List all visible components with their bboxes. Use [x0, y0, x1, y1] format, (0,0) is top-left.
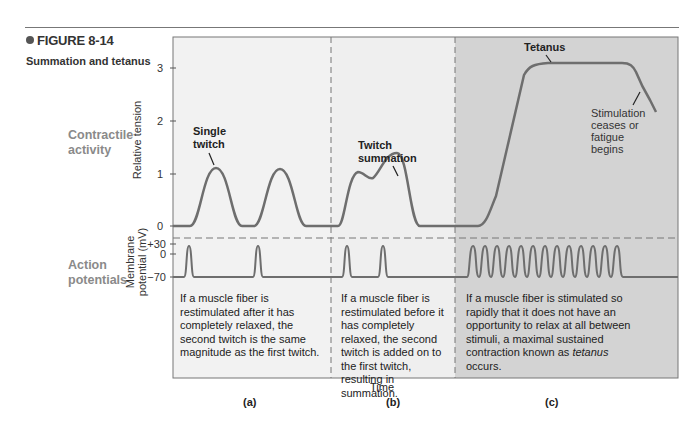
single-twitch-label: twitch [193, 138, 225, 150]
svg-text:Stimulation: Stimulation [591, 107, 645, 119]
panel-c-letter: (c) [545, 396, 558, 408]
svg-text:3: 3 [157, 62, 163, 74]
svg-text:ceases or: ceases or [591, 119, 639, 131]
svg-text:2: 2 [157, 115, 163, 127]
desc-italic: tetanus [572, 346, 608, 358]
svg-text:0: 0 [157, 220, 163, 232]
twitch-summation-label: summation [358, 152, 417, 164]
svg-text:0: 0 [160, 248, 166, 260]
panel-c-description: If a muscle fiber is stimulated so rapid… [466, 292, 641, 373]
panel-b-description: If a muscle fiber is restimulated before… [341, 292, 453, 400]
svg-text:potential (mV): potential (mV) [136, 228, 148, 296]
tension-axis-label: Relative tension [131, 101, 143, 179]
panel-b-letter: (b) [386, 396, 400, 408]
svg-text:1: 1 [157, 168, 163, 180]
twitch-summation-label: Twitch [358, 139, 392, 151]
tetanus-label: Tetanus [524, 41, 565, 53]
single-twitch-label: Single [193, 125, 226, 137]
svg-text:−70: −70 [147, 271, 166, 283]
time-axis-label: Time [370, 381, 394, 393]
svg-text:begins: begins [591, 143, 624, 155]
panel-a-letter: (a) [243, 396, 256, 408]
panel-a-description: If a muscle fiber is restimulated after … [180, 292, 330, 360]
membrane-axis: +30 0 −70 Membrane potential (mV) [124, 228, 176, 296]
desc-text: occurs. [466, 360, 501, 372]
tension-axis: 3 2 1 0 Relative tension [131, 62, 176, 232]
svg-text:Membrane: Membrane [124, 236, 136, 289]
svg-text:fatigue: fatigue [591, 131, 624, 143]
